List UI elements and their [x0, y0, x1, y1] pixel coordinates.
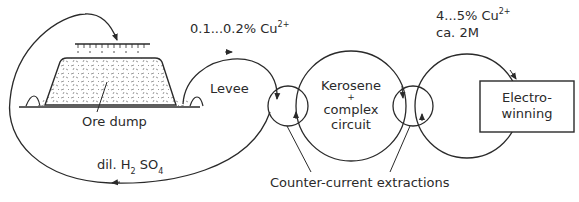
kerosene-circuit-label: Kerosene + complex circuit	[310, 78, 392, 132]
electrowinning-label: Electro- winning	[480, 90, 574, 122]
electrolyte-text: 4...5% Cu	[436, 8, 499, 23]
raffinate-text-mid: SO	[136, 157, 159, 172]
electrolyte-label-line1: 4...5% Cu2+	[436, 9, 511, 22]
pregnant-solution-text: 0.1...0.2% Cu	[190, 21, 278, 36]
electrowinning-line-1: Electro-	[480, 90, 574, 106]
kerosene-line-2: +	[310, 93, 392, 102]
raffinate-sub-1: 2	[131, 167, 136, 176]
leader-extraction-2	[390, 126, 410, 172]
kerosene-line-1: Kerosene	[310, 78, 392, 93]
levee-right	[190, 97, 203, 106]
extraction-circle-1	[268, 86, 308, 126]
raffinate-label: dil. H2 SO4	[97, 158, 163, 175]
kerosene-line-4: circuit	[310, 117, 392, 132]
ore-dump-heap	[45, 58, 176, 105]
raffinate-sub-2: 4	[158, 167, 163, 176]
electrolyte-label-line2: ca. 2M	[436, 26, 479, 39]
ore-dump-label: Ore dump	[82, 115, 147, 128]
pregnant-solution-charge: 2+	[278, 20, 290, 29]
electrowinning-line-2: winning	[480, 106, 574, 122]
levee-left	[26, 96, 40, 106]
levee-label: Levee	[210, 82, 249, 95]
kerosene-line-3: complex	[310, 102, 392, 117]
leader-extraction-1	[287, 126, 311, 172]
electrolyte-charge: 2+	[499, 7, 511, 16]
pregnant-solution-label: 0.1...0.2% Cu2+	[190, 22, 289, 35]
heap-leach-diagram: Ore dump Levee 0.1...0.2% Cu2+ 4...5% Cu…	[0, 0, 579, 202]
raffinate-text: dil. H	[97, 157, 131, 172]
counter-current-extractions-label: Counter-current extractions	[270, 176, 450, 189]
